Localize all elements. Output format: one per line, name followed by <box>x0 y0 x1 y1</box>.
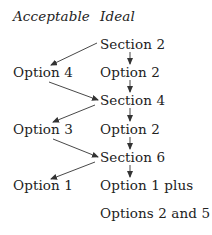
arrow-section2-to-option4 <box>51 43 97 65</box>
arrow-option3-to-section6 <box>53 139 98 157</box>
arrow-section6-to-option1 <box>51 162 95 179</box>
arrow-section4-to-option3 <box>53 105 95 122</box>
arrow-option4-to-section4 <box>49 82 98 100</box>
arrows-layer <box>0 0 212 235</box>
